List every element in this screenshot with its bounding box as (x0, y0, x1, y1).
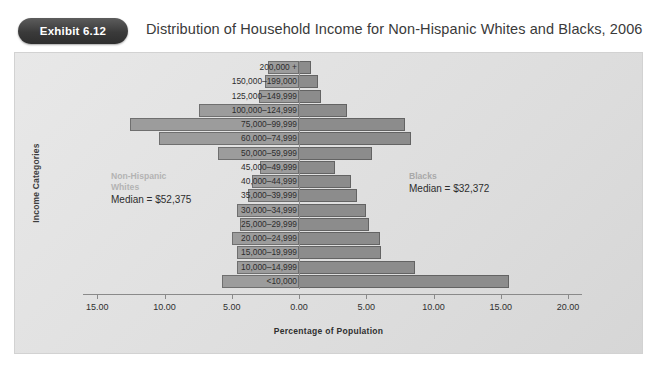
category-label: 25,000–29,999 (241, 218, 297, 231)
x-axis-tick (434, 294, 435, 299)
table-row: 50,000–59,999 (15, 147, 642, 160)
bar-right-blacks (299, 204, 366, 217)
bar-right-blacks (299, 61, 311, 74)
bar-right-blacks (299, 175, 351, 188)
table-row: 25,000–29,999 (15, 218, 642, 231)
bar-right-blacks (299, 132, 411, 145)
bar-right-blacks (299, 218, 369, 231)
bar-right-blacks (299, 261, 415, 274)
bar-right-blacks (299, 75, 318, 88)
exhibit-badge-label: Exhibit 6.12 (40, 25, 106, 37)
x-axis-tick-label: 15.00 (86, 302, 109, 312)
bar-right-blacks (299, 90, 321, 103)
bar-right-blacks (299, 104, 347, 117)
table-row: 10,000–14,999 (15, 261, 642, 274)
bar-rows-container: 200,000 +150,000–199,000125,000–149,9991… (15, 61, 642, 289)
table-row: <10,000 (15, 275, 642, 288)
bar-right-blacks (299, 147, 372, 160)
table-row: 35,000–39,999 (15, 189, 642, 202)
exhibit-header: Exhibit 6.12 Distribution of Household I… (0, 14, 655, 52)
x-axis-title: Percentage of Population (15, 326, 642, 336)
annotation-blacks: Blacks Median = $32,372 (409, 171, 489, 196)
page-title: Distribution of Household Income for Non… (146, 21, 643, 37)
exhibit-badge: Exhibit 6.12 (18, 18, 128, 44)
bar-right-blacks (299, 275, 509, 288)
chart-plot-area: Income Categories 200,000 +150,000–199,0… (15, 53, 642, 353)
category-label: 125,000–149,999 (232, 90, 297, 103)
annotation-median-whites: Median = $52,375 (111, 193, 191, 207)
table-row: 40,000–44,999 (15, 175, 642, 188)
table-row: 200,000 + (15, 61, 642, 74)
category-label: 200,000 + (260, 61, 298, 74)
x-axis-tick-label: 10.00 (153, 302, 176, 312)
bar-right-blacks (299, 118, 405, 131)
x-axis-line (83, 294, 582, 295)
x-axis-tick (366, 294, 367, 299)
table-row: 150,000–199,000 (15, 75, 642, 88)
bar-right-blacks (299, 189, 357, 202)
bar-right-blacks (299, 161, 335, 174)
x-axis: 15.0010.005.000.005.0010.0015.0020.00 (15, 294, 642, 324)
x-axis-tick (232, 294, 233, 299)
table-row: 15,000–19,999 (15, 246, 642, 259)
x-axis-tick (97, 294, 98, 299)
category-label: 35,000–39,999 (241, 189, 297, 202)
table-row: 30,000–34,999 (15, 204, 642, 217)
x-axis-tick (568, 294, 569, 299)
zero-axis-line (299, 61, 300, 289)
annotation-group-line1: Blacks (409, 171, 489, 182)
x-axis-tick-label: 20.00 (557, 302, 580, 312)
x-axis-tick (299, 294, 300, 299)
x-axis-tick (165, 294, 166, 299)
category-label: 30,000–34,999 (241, 204, 297, 217)
bar-right-blacks (299, 232, 380, 245)
table-row: 20,000–24,999 (15, 232, 642, 245)
annotation-non-hispanic-whites: Non-Hispanic Whites Median = $52,375 (111, 171, 191, 207)
x-axis-tick-label: 15.00 (489, 302, 512, 312)
category-label: 20,000–24,999 (241, 232, 297, 245)
bar-right-blacks (299, 246, 381, 259)
table-row: 75,000–99,999 (15, 118, 642, 131)
category-label: 40,000–44,999 (241, 175, 297, 188)
annotation-median-blacks: Median = $32,372 (409, 182, 489, 196)
category-label: 60,000–74,999 (241, 132, 297, 145)
x-axis-tick-label: 5.00 (223, 302, 241, 312)
table-row: 125,000–149,999 (15, 90, 642, 103)
chart-panel: Income Categories 200,000 +150,000–199,0… (14, 52, 643, 354)
category-label: 15,000–19,999 (241, 246, 297, 259)
category-label: 100,000–124,999 (232, 104, 297, 117)
annotation-group-line2: Whites (111, 182, 191, 193)
category-label: 150,000–199,000 (232, 75, 297, 88)
table-row: 45,000–49,999 (15, 161, 642, 174)
x-axis-tick-label: 5.00 (357, 302, 375, 312)
table-row: 100,000–124,999 (15, 104, 642, 117)
category-label: 10,000–14,999 (241, 261, 297, 274)
x-axis-tick (501, 294, 502, 299)
annotation-group-line1: Non-Hispanic (111, 171, 191, 182)
category-label: 50,000–59,999 (241, 147, 297, 160)
exhibit-figure: Exhibit 6.12 Distribution of Household I… (0, 0, 655, 374)
x-axis-tick-label: 10.00 (422, 302, 445, 312)
x-axis-tick-label: 0.00 (290, 302, 308, 312)
category-label: 45,000–49,999 (241, 161, 297, 174)
category-label: <10,000 (266, 275, 297, 288)
table-row: 60,000–74,999 (15, 132, 642, 145)
category-label: 75,000–99,999 (241, 118, 297, 131)
